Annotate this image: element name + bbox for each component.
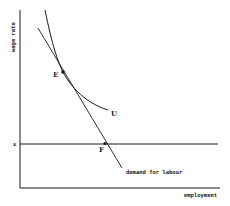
point-e-label: E [53,70,58,79]
point-f-label: F [99,145,104,154]
point-e-marker [61,70,65,74]
demand-curve-label: demand for labour [126,169,183,175]
y-axis-label: wage rate [10,22,17,52]
x-axis-label: employment [184,192,217,199]
indifference-curve-label: U [111,109,117,118]
indifference-curve [45,10,108,110]
wage-level-label: x [13,141,17,147]
labour-market-diagram: wage rate employment x demand for labour… [0,0,230,206]
demand-curve [38,28,122,168]
